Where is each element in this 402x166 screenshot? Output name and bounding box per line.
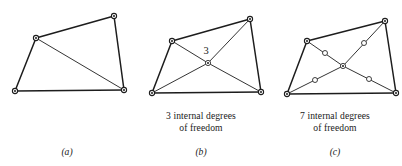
panel-a-outer-edge-2 (15, 90, 124, 91)
panel-a-outer-edge-1 (15, 38, 36, 91)
mesh-geometry-layer: 3 (12, 13, 398, 96)
panel-a-outer-edge-0 (36, 16, 114, 38)
panel-a-corner-node-dot-2 (14, 90, 16, 92)
panel-c-outer-edge-1 (287, 41, 307, 94)
panel-c-corner-node-dot-0 (384, 20, 386, 22)
panel-c-interior-node-0 (362, 41, 367, 46)
panel-b-outer-edge-3 (250, 19, 261, 92)
panel-a-corner-node-dot-0 (113, 15, 115, 17)
panel-c-corner-node-dot-1 (306, 40, 308, 42)
panel-b-outer-edge-2 (152, 92, 261, 93)
panel-a-label: (a) (0, 146, 134, 157)
panel-b-outer-edge-1 (152, 41, 172, 93)
panel-a-diagonal-0 (36, 38, 124, 90)
panel-b-corner-node-dot-1 (171, 40, 173, 42)
panel-b-label: (b) (134, 146, 268, 157)
panel-c-caption-line-2: of freedom (268, 122, 402, 134)
panel-b-spoke-3 (208, 63, 261, 92)
panel-b-spoke-2 (152, 63, 208, 93)
panel-c-caption-line-1: 7 internal degrees (268, 110, 402, 122)
panel-c-interior-node-2 (313, 78, 318, 83)
panel-c-label: (c) (268, 146, 402, 157)
panel-a-outer-edge-3 (114, 16, 124, 90)
panel-b-corner-node-dot-0 (249, 18, 251, 20)
panel-b-caption-line-1: 3 internal degrees (134, 110, 268, 122)
panel-c-outer-edge-3 (385, 21, 396, 93)
panel-a-corner-node-dot-3 (123, 89, 125, 91)
panel-c-caption: 7 internal degrees of freedom (268, 110, 402, 133)
panel-b-caption-line-2: of freedom (134, 122, 268, 134)
panel-c-center-node-dot (342, 65, 344, 67)
panel-b-corner-node-dot-3 (260, 91, 262, 93)
panel-b-center-node-dot (207, 62, 209, 64)
panel-b-corner-node-dot-2 (151, 92, 153, 94)
panel-c-corner-node-dot-3 (395, 92, 397, 94)
panel-b-caption: 3 internal degrees of freedom (134, 110, 268, 133)
panel-c-corner-node-dot-2 (286, 93, 288, 95)
panel-c-outer-edge-0 (307, 21, 385, 41)
panel-b-outer-edge-0 (172, 19, 250, 41)
mesh-diagram-canvas: 3 (0, 0, 402, 166)
panel-c-interior-node-3 (367, 77, 372, 82)
panel-c-interior-node-1 (323, 51, 328, 56)
panel-b-dof-annotation: 3 (203, 45, 208, 56)
figure-root: 3 3 internal degrees of freedom 7 intern… (0, 0, 402, 166)
panel-c-outer-edge-2 (287, 93, 396, 94)
panel-a-corner-node-dot-1 (35, 37, 37, 39)
